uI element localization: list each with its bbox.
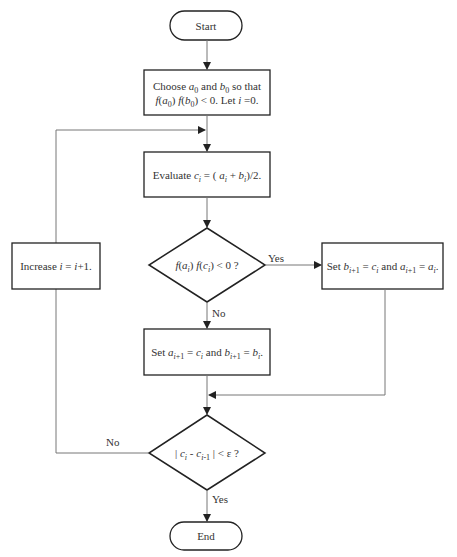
set-a-label: Set ai+1 = ci and bi+1 = bi. bbox=[144, 329, 270, 375]
evaluate-label: Evaluate ci = ( ai + bi)/2. bbox=[144, 152, 270, 197]
sign-no-label: No bbox=[212, 307, 225, 319]
init-line2: f(a0) f(b0) < 0. Let i =0. bbox=[156, 93, 259, 107]
end-label: End bbox=[170, 522, 242, 550]
increase-text: Increase i = i+1. bbox=[20, 259, 92, 273]
init-label: Choose a0 and b0 so that f(a0) f(b0) < 0… bbox=[144, 70, 270, 115]
convergence-decision-text: | ci - ci-1 | < ε ? bbox=[175, 446, 239, 460]
init-line1: Choose a0 and b0 so that bbox=[153, 79, 261, 93]
convergence-decision-label: | ci - ci-1 | < ε ? bbox=[149, 439, 265, 467]
sign-decision-text: f(ai) f(ci) < 0 ? bbox=[175, 258, 238, 272]
set-b-label: Set bi+1 = ci and ai+1 = ai. bbox=[322, 243, 443, 289]
sign-yes-label: Yes bbox=[268, 252, 284, 264]
end-text: End bbox=[197, 529, 215, 543]
conv-no-label: No bbox=[106, 436, 119, 448]
so-that-word: so that bbox=[232, 80, 261, 92]
choose-word: Choose bbox=[153, 80, 186, 92]
set-a-text: Set ai+1 = ci and bi+1 = bi. bbox=[151, 345, 263, 359]
sign-decision-label: f(ai) f(ci) < 0 ? bbox=[149, 251, 265, 279]
conv-yes-label: Yes bbox=[212, 493, 228, 505]
let-word: Let bbox=[221, 94, 236, 106]
set-b-text: Set bi+1 = ci and ai+1 = ai. bbox=[327, 259, 439, 273]
evaluate-text: Evaluate ci = ( ai + bi)/2. bbox=[153, 168, 262, 182]
and-word: and bbox=[201, 80, 217, 92]
start-text: Start bbox=[196, 19, 217, 33]
edge-conv-no bbox=[56, 289, 149, 453]
increase-label: Increase i = i+1. bbox=[12, 243, 100, 289]
start-label: Start bbox=[170, 11, 242, 40]
